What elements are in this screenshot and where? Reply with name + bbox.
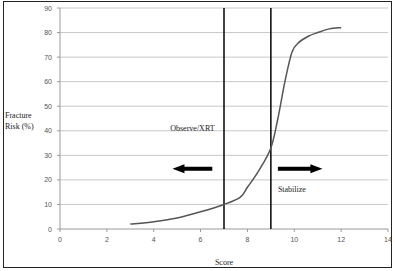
x-tick-label: 8 xyxy=(245,236,249,243)
y-tick-label: 70 xyxy=(44,54,52,61)
x-axis-label: Score xyxy=(215,258,234,267)
y-tick-label: 50 xyxy=(44,103,52,110)
y-tick-label: 90 xyxy=(44,5,52,12)
x-tick-label: 4 xyxy=(152,236,156,243)
arrow-left-icon xyxy=(172,164,212,173)
y-tick-label: 40 xyxy=(44,127,52,134)
x-tick-label: 14 xyxy=(384,236,392,243)
y-tick-label: 80 xyxy=(44,29,52,36)
fracture-risk-chart: 010203040506070809002468101214ScoreFract… xyxy=(0,0,395,271)
y-tick-label: 60 xyxy=(44,78,52,85)
annotation-observe-xrt: Observe/XRT xyxy=(170,124,215,133)
x-tick-label: 10 xyxy=(290,236,298,243)
x-tick-label: 12 xyxy=(337,236,345,243)
x-tick-label: 0 xyxy=(58,236,62,243)
y-tick-label: 20 xyxy=(44,176,52,183)
arrow-right-icon xyxy=(278,164,323,173)
y-tick-label: 10 xyxy=(44,201,52,208)
y-tick-label: 0 xyxy=(48,226,52,233)
y-axis-label-line1: Fracture xyxy=(5,111,32,120)
annotation-stabilize: Stabilize xyxy=(278,185,306,194)
x-tick-label: 2 xyxy=(105,236,109,243)
x-tick-label: 6 xyxy=(199,236,203,243)
y-axis-label-line2: Risk (%) xyxy=(5,122,34,131)
y-tick-label: 30 xyxy=(44,152,52,159)
